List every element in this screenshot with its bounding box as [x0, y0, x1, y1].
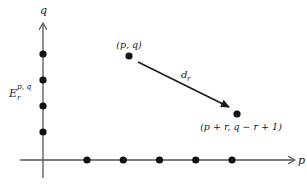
horizontal-axis-dot: [228, 156, 235, 163]
horizontal-axis-dot: [120, 156, 127, 163]
target-point-label: (p + r, q − r + 1): [200, 121, 282, 132]
page-label-sub: r: [17, 94, 21, 102]
source-point: [125, 52, 132, 59]
p-axis-label: p: [298, 154, 305, 167]
vertical-axis-dot: [39, 102, 46, 109]
vertical-axis-dot: [39, 128, 46, 135]
page-label-sup: p, q: [17, 82, 32, 91]
differential-label-sub: r: [187, 75, 191, 83]
q-axis-label: q: [40, 4, 47, 17]
page-label-base: E: [8, 87, 17, 100]
differential-label: d r: [181, 69, 191, 83]
spectral-sequence-diagram: q p E p, q r (p, q) d r (p + r, q − r + …: [0, 0, 307, 185]
source-point-label: (p, q): [116, 39, 142, 50]
horizontal-axis-dot: [83, 156, 90, 163]
page-label: E p, q r: [8, 82, 32, 102]
horizontal-axis-dot: [156, 156, 163, 163]
vertical-axis-dot: [39, 76, 46, 83]
target-point: [233, 110, 240, 117]
horizontal-axis-dot: [192, 156, 199, 163]
vertical-axis-dot: [39, 50, 46, 57]
